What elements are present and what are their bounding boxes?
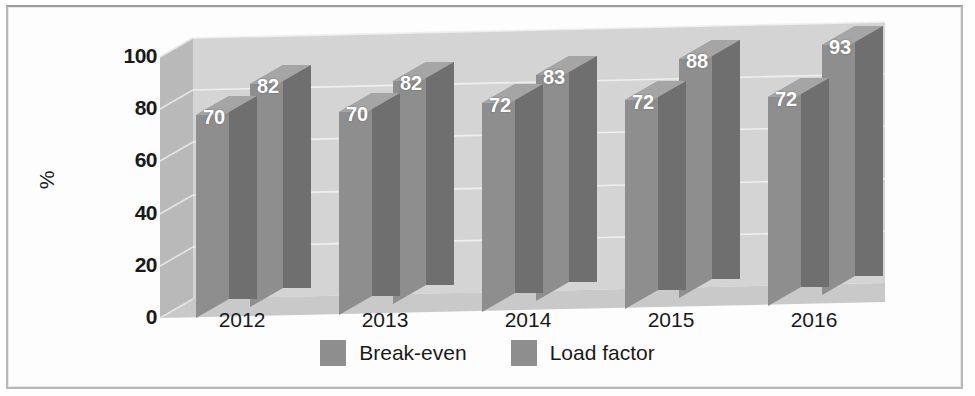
y-tick-40: 40: [97, 202, 157, 223]
bar-2013-break-even: [339, 93, 400, 315]
data-label-2012-load-factor: 82: [257, 76, 279, 96]
y-tick-80: 80: [97, 97, 157, 118]
x-tick-2014: 2014: [483, 308, 573, 332]
x-tick-2016: 2016: [769, 308, 859, 332]
chart-image-root: 100 80 60 40 20 0 % 2012 2013 2014 2015 …: [0, 0, 975, 396]
data-label-2015-load-factor: 88: [686, 51, 708, 71]
x-tick-2013: 2013: [340, 308, 430, 332]
bar-2014-break-even: [482, 84, 543, 312]
y-tick-20: 20: [97, 254, 157, 275]
bar-2012-break-even: [196, 96, 257, 318]
bar-2016-break-even: [768, 78, 829, 306]
y-axis-title: %: [35, 171, 59, 190]
data-label-2015-break-even: 72: [632, 92, 654, 112]
y-tick-60: 60: [97, 149, 157, 170]
legend-item-load-factor[interactable]: Load factor: [511, 340, 655, 366]
bar-2015-load-factor: [679, 40, 740, 298]
data-label-2016-break-even: 72: [775, 89, 797, 109]
data-label-2012-break-even: 70: [203, 107, 225, 127]
bar-2013-load-factor: [393, 62, 454, 304]
legend-swatch-load-factor-icon: [511, 340, 537, 366]
data-label-2014-load-factor: 83: [543, 67, 565, 87]
x-axis: 2012 2013 2014 2015 2016: [0, 308, 975, 338]
legend-label-break-even: Break-even: [359, 341, 466, 365]
y-tick-100: 100: [97, 45, 157, 66]
plot-left-wall: [160, 38, 193, 318]
x-tick-2012: 2012: [197, 308, 287, 332]
data-label-2014-break-even: 72: [489, 95, 511, 115]
bar-2012-load-factor: [250, 65, 311, 307]
chart-legend: Break-even Load factor: [0, 340, 975, 366]
legend-swatch-break-even-icon: [320, 340, 346, 366]
data-label-2016-load-factor: 93: [829, 37, 851, 57]
legend-item-break-even[interactable]: Break-even: [320, 340, 466, 366]
data-label-2013-load-factor: 82: [400, 73, 422, 93]
legend-label-load-factor: Load factor: [550, 341, 655, 365]
bar-2016-load-factor: [822, 26, 883, 295]
bar-2014-load-factor: [536, 56, 597, 301]
data-label-2013-break-even: 70: [346, 104, 368, 124]
x-tick-2015: 2015: [626, 308, 716, 332]
bar-2015-break-even: [625, 81, 686, 309]
